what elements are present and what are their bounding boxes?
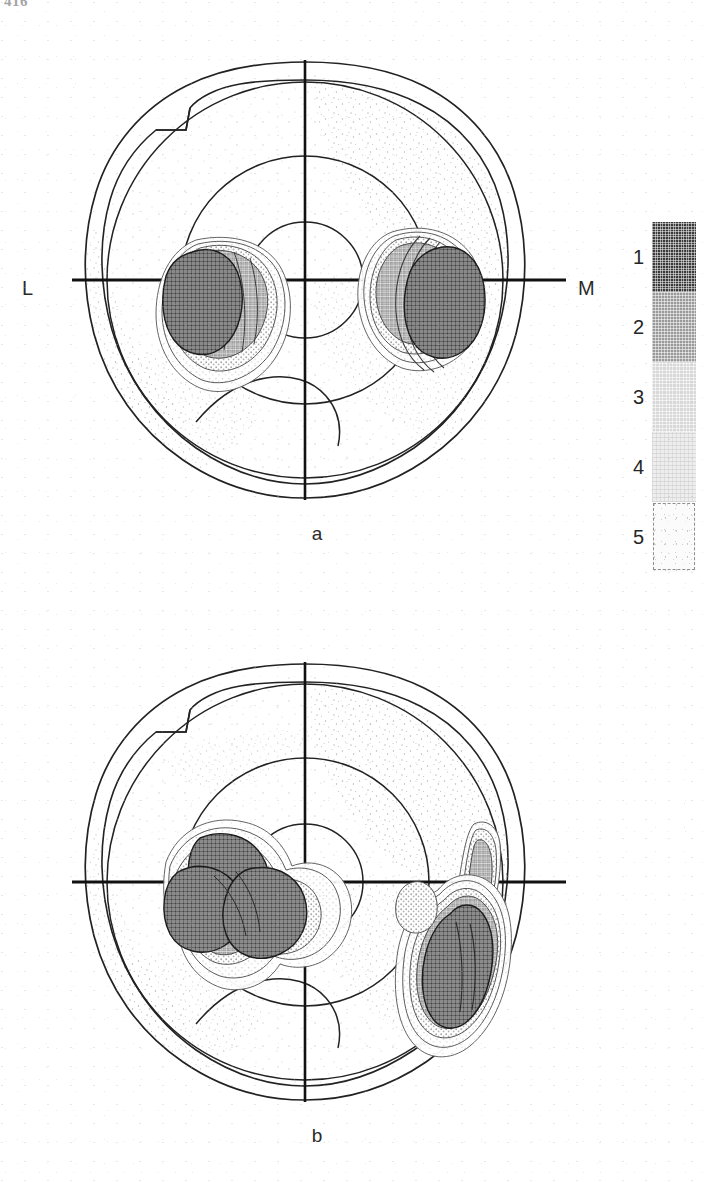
legend-row-5: 5 xyxy=(608,502,700,572)
legend-row-2: 2 xyxy=(608,292,700,362)
panel-b-figure xyxy=(0,628,610,1128)
legend-label-2: 2 xyxy=(608,317,652,337)
legend-row-4: 4 xyxy=(608,432,700,502)
legend-swatch-2 xyxy=(652,292,696,362)
panel-b xyxy=(0,628,610,1128)
legend-swatch-1 xyxy=(652,222,696,292)
legend-label-1: 1 xyxy=(608,247,652,267)
legend-row-3: 3 xyxy=(608,362,700,432)
legend-row-1: 1 xyxy=(608,222,700,292)
legend-label-3: 3 xyxy=(608,387,652,407)
legend-swatch-3 xyxy=(652,362,696,432)
legend: 1 2 3 4 5 xyxy=(608,222,700,584)
contact-cluster-medial-a xyxy=(358,228,485,372)
axis-label-lateral: L xyxy=(22,278,33,298)
page-number: 416 xyxy=(4,0,28,10)
legend-label-4: 4 xyxy=(608,457,652,477)
legend-swatch-4 xyxy=(652,432,696,502)
panel-a xyxy=(0,26,610,526)
axis-label-medial: M xyxy=(578,278,595,298)
legend-label-5: 5 xyxy=(608,527,652,547)
panel-caption-b: b xyxy=(297,1126,337,1145)
panel-caption-a: a xyxy=(297,524,337,543)
legend-swatch-5 xyxy=(652,502,696,572)
panel-a-figure xyxy=(0,26,610,526)
